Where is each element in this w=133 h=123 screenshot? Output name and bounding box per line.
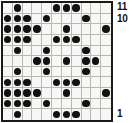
grid-cell-filled: [62, 88, 72, 99]
grid-cell-filled: [32, 88, 42, 99]
grid-cell-filled: [82, 99, 92, 110]
grid-cell-empty: [101, 99, 111, 110]
grid-cell-filled: [101, 88, 111, 99]
grid-cell-empty: [82, 24, 92, 35]
grid-cell-filled: [23, 88, 33, 99]
grid-cell-empty: [82, 109, 92, 120]
grid-cell-empty: [101, 77, 111, 88]
dot-marker: [43, 57, 50, 64]
grid-cell-empty: [101, 109, 111, 120]
grid-cell-filled: [3, 88, 13, 99]
dot-marker: [82, 68, 89, 75]
dot-marker: [14, 79, 21, 86]
grid-cell-empty: [23, 67, 33, 78]
grid-cell-filled: [42, 46, 52, 57]
grid-cell-filled: [13, 67, 23, 78]
grid-cell-filled: [13, 3, 23, 14]
grid-cell-filled: [72, 77, 82, 88]
grid-cell-filled: [23, 14, 33, 25]
dot-marker: [82, 57, 89, 64]
grid-cell-empty: [42, 109, 52, 120]
grid-cell-empty: [62, 67, 72, 78]
dot-marker: [23, 89, 30, 96]
dot-marker: [43, 100, 50, 107]
grid-cell-filled: [42, 99, 52, 110]
grid-cell-filled: [62, 109, 72, 120]
grid-cell-empty: [91, 35, 101, 46]
dot-marker: [4, 36, 11, 43]
grid-cell-filled: [3, 77, 13, 88]
grid-cell-empty: [62, 99, 72, 110]
dot-marker: [43, 15, 50, 22]
row-label-bottom: 1: [117, 109, 122, 119]
grid-cell-empty: [32, 67, 42, 78]
grid-cell-empty: [3, 3, 13, 14]
dot-marker: [14, 68, 21, 75]
dot-marker: [102, 25, 109, 32]
grid-cell-empty: [52, 24, 62, 35]
dot-marker: [63, 57, 70, 64]
grid-cell-empty: [72, 56, 82, 67]
grid-cell-empty: [91, 77, 101, 88]
grid-cell-filled: [13, 24, 23, 35]
dot-marker: [14, 15, 21, 22]
dot-marker: [23, 15, 30, 22]
grid-cell-empty: [32, 35, 42, 46]
grid-cell-empty: [32, 109, 42, 120]
grid-cell-empty: [32, 99, 42, 110]
dot-matrix-grid-container: [1, 1, 113, 122]
grid-cell-filled: [32, 24, 42, 35]
dot-marker: [43, 68, 50, 75]
dot-marker: [43, 47, 50, 54]
grid-cell-empty: [62, 46, 72, 57]
grid-cell-filled: [13, 14, 23, 25]
grid-cell-empty: [62, 14, 72, 25]
grid-cell-empty: [82, 35, 92, 46]
grid-cell-filled: [23, 35, 33, 46]
grid-cell-empty: [91, 3, 101, 14]
dot-marker: [102, 89, 109, 96]
grid-cell-empty: [42, 24, 52, 35]
grid-cell-empty: [91, 24, 101, 35]
grid-cell-filled: [13, 77, 23, 88]
grid-cell-filled: [23, 24, 33, 35]
grid-cell-empty: [82, 3, 92, 14]
grid-cell-empty: [72, 24, 82, 35]
grid-cell-empty: [13, 56, 23, 67]
grid-cell-filled: [62, 77, 72, 88]
dot-marker: [53, 111, 60, 118]
grid-cell-empty: [91, 46, 101, 57]
grid-cell-empty: [32, 77, 42, 88]
grid-cell-empty: [23, 109, 33, 120]
grid-cell-empty: [91, 14, 101, 25]
grid-cell-filled: [13, 88, 23, 99]
grid-cell-empty: [91, 88, 101, 99]
grid-cell-filled: [72, 109, 82, 120]
grid-cell-empty: [72, 99, 82, 110]
grid-cell-empty: [52, 67, 62, 78]
grid-cell-empty: [32, 3, 42, 14]
dot-marker: [53, 4, 60, 11]
grid-cell-empty: [3, 56, 13, 67]
dot-marker: [72, 111, 79, 118]
dot-marker: [53, 79, 60, 86]
dot-marker: [63, 36, 70, 43]
figure-root: 11 10 1: [0, 0, 133, 123]
grid-cell-empty: [91, 67, 101, 78]
dot-marker: [82, 47, 89, 54]
dot-marker: [72, 36, 79, 43]
grid-cell-empty: [82, 88, 92, 99]
grid-cell-filled: [52, 35, 62, 46]
grid-cell-filled: [101, 24, 111, 35]
grid-cell-empty: [72, 14, 82, 25]
dot-marker: [63, 79, 70, 86]
grid-cell-empty: [52, 14, 62, 25]
grid-cell-filled: [82, 46, 92, 57]
grid-cell-empty: [32, 46, 42, 57]
dot-marker: [92, 57, 99, 64]
dot-marker: [33, 25, 40, 32]
row-label-second: 10: [117, 14, 128, 24]
grid-cell-empty: [52, 99, 62, 110]
grid-cell-empty: [42, 35, 52, 46]
grid-cell-filled: [32, 56, 42, 67]
